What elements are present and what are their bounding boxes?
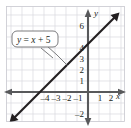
y-tick-label: 2	[80, 65, 85, 75]
coordinate-plane-figure: –4 –3 –2 –1 1 2 6 4 3 2 1 –2 x y y = x +…	[0, 0, 131, 128]
x-tick-label: –1	[73, 93, 83, 103]
y-tick-label: 3	[80, 54, 85, 64]
x-tick-labels: –4 –3 –2 –1 1 2	[40, 93, 114, 103]
graph-canvas: –4 –3 –2 –1 1 2 6 4 3 2 1 –2 x y y = x +…	[0, 0, 131, 128]
x-tick-label: 2	[109, 93, 114, 103]
callout-label: y = x + 5	[16, 35, 51, 45]
y-tick-label: 4	[80, 43, 85, 53]
y-tick-label: 6	[80, 21, 85, 31]
y-tick-label: 1	[80, 76, 85, 86]
y-axis-name: y	[93, 8, 98, 18]
x-tick-label: –2	[62, 93, 72, 103]
x-tick-label: 1	[98, 93, 103, 103]
x-tick-label: –4	[40, 93, 51, 103]
callout-constant: 5	[46, 35, 51, 45]
y-axis-arrow-down	[85, 118, 92, 126]
x-axis-name: x	[115, 91, 120, 101]
y-tick-label: –2	[74, 109, 84, 119]
x-tick-label: –3	[51, 93, 62, 103]
